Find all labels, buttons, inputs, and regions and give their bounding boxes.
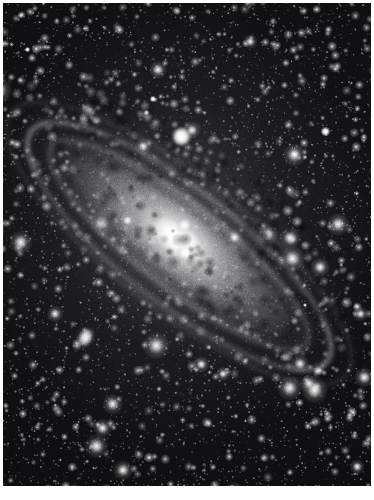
foreground-star-n bbox=[150, 96, 156, 102]
plate-caption bbox=[3, 488, 370, 499]
plate-fog bbox=[3, 3, 371, 486]
foreground-star-w bbox=[25, 47, 30, 52]
foreground-star-e bbox=[303, 303, 307, 307]
foreground-star-ne bbox=[321, 127, 330, 136]
foreground-star-nw bbox=[144, 110, 149, 115]
sky-image bbox=[3, 3, 371, 486]
photographic-plate-page bbox=[0, 0, 374, 500]
